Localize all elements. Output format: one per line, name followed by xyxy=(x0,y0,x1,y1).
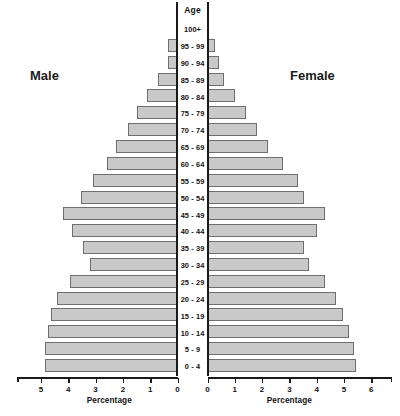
age-group-label: 85 - 89 xyxy=(170,76,216,85)
age-group-label: 45 - 49 xyxy=(170,211,216,220)
bar-female xyxy=(208,224,317,237)
age-group-label: 75 - 79 xyxy=(170,109,216,118)
right-axis-2-tick-label: 2 xyxy=(255,385,269,394)
bar-female xyxy=(208,174,298,187)
bar-female xyxy=(208,207,326,220)
bar-female xyxy=(208,325,350,338)
bar-male xyxy=(51,308,178,321)
age-group-label: 60 - 64 xyxy=(170,160,216,169)
age-group-label: 40 - 44 xyxy=(170,227,216,236)
bar-female xyxy=(208,308,343,321)
left-axis-5-tick-label: 5 xyxy=(34,385,48,394)
age-group-label: 90 - 94 xyxy=(170,59,216,68)
right-axis-title: Percentage xyxy=(229,396,349,405)
bar-male xyxy=(90,258,177,271)
bar-female xyxy=(208,191,305,204)
left-axis-3-tick xyxy=(96,378,97,383)
age-group-label: 20 - 24 xyxy=(170,295,216,304)
bar-female xyxy=(208,157,283,170)
bar-male xyxy=(45,359,177,372)
figure-caption xyxy=(8,410,396,416)
age-group-label: 65 - 69 xyxy=(170,143,216,152)
bar-male xyxy=(63,207,178,220)
bar-female xyxy=(208,359,357,372)
plot-area: Age100+95 - 9990 - 9485 - 8980 - 8475 - … xyxy=(0,0,400,376)
age-group-label: 100+ xyxy=(170,25,216,34)
age-group-label: 30 - 34 xyxy=(170,261,216,270)
bar-male xyxy=(45,342,177,355)
bar-female xyxy=(208,292,337,305)
age-group-label: 10 - 14 xyxy=(170,329,216,338)
bar-female xyxy=(208,275,325,288)
right-axis-1-tick-label: 1 xyxy=(228,385,242,394)
bar-male xyxy=(93,174,178,187)
male-side-label: Male xyxy=(30,68,59,83)
bar-female xyxy=(208,258,309,271)
right-axis-1-tick xyxy=(235,378,236,383)
bar-male xyxy=(57,292,177,305)
right-axis-end-cap xyxy=(391,377,393,382)
bar-male xyxy=(81,191,178,204)
right-axis-6-tick-label: 6 xyxy=(364,385,378,394)
left-axis-end-cap xyxy=(17,377,19,382)
right-axis-3-tick xyxy=(289,378,290,383)
left-axis-1-tick xyxy=(150,378,151,383)
age-axis-title: Age xyxy=(158,5,228,15)
bar-male xyxy=(116,140,177,153)
left-axis-2-tick xyxy=(123,378,124,383)
right-axis-4-tick xyxy=(317,378,318,383)
age-group-label: 5 - 9 xyxy=(170,345,216,354)
age-group-label: 50 - 54 xyxy=(170,194,216,203)
right-axis-0-tick-label: 0 xyxy=(201,385,215,394)
left-axis-title: Percentage xyxy=(49,396,169,405)
left-axis-4-tick-label: 4 xyxy=(61,385,75,394)
age-group-label: 35 - 39 xyxy=(170,244,216,253)
right-axis-4-tick-label: 4 xyxy=(310,385,324,394)
age-group-label: 70 - 74 xyxy=(170,126,216,135)
left-axis-5-tick xyxy=(41,378,42,383)
bar-male xyxy=(48,325,178,338)
bar-male xyxy=(83,241,177,254)
bar-female xyxy=(208,140,269,153)
age-group-label: 0 - 4 xyxy=(170,362,216,371)
left-axis-1-tick-label: 1 xyxy=(143,385,157,394)
left-axis-2-tick-label: 2 xyxy=(116,385,130,394)
right-axis-0-tick xyxy=(208,378,209,383)
age-group-label: 55 - 59 xyxy=(170,177,216,186)
age-group-label: 15 - 19 xyxy=(170,312,216,321)
right-axis-5-tick-label: 5 xyxy=(337,385,351,394)
right-axis-6-tick xyxy=(371,378,372,383)
age-group-label: 95 - 99 xyxy=(170,42,216,51)
left-axis-4-tick xyxy=(68,378,69,383)
population-pyramid-chart: Age100+95 - 9990 - 9485 - 8980 - 8475 - … xyxy=(0,0,400,416)
age-group-label: 80 - 84 xyxy=(170,93,216,102)
right-axis-5-tick xyxy=(344,378,345,383)
bar-male xyxy=(72,224,177,237)
left-axis-0-tick-label: 0 xyxy=(171,385,185,394)
left-axis-3-tick-label: 3 xyxy=(89,385,103,394)
bar-male xyxy=(107,157,178,170)
age-group-label: 25 - 29 xyxy=(170,278,216,287)
left-axis-0-tick xyxy=(178,378,179,383)
bar-male xyxy=(70,275,178,288)
right-axis-2-tick xyxy=(262,378,263,383)
bar-female xyxy=(208,241,305,254)
female-side-label: Female xyxy=(290,68,335,83)
right-axis-3-tick-label: 3 xyxy=(282,385,296,394)
bar-female xyxy=(208,342,354,355)
